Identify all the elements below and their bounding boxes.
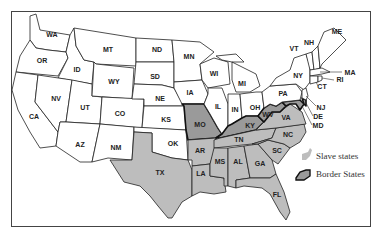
label-OK: OK bbox=[168, 140, 179, 147]
state-NY bbox=[270, 54, 310, 90]
label-LA: LA bbox=[196, 170, 205, 177]
label-MN: MN bbox=[184, 53, 195, 60]
legend-border-label: Border States bbox=[316, 169, 365, 179]
label-MD: MD bbox=[313, 122, 324, 129]
label-AZ: AZ bbox=[75, 141, 85, 148]
label-NY: NY bbox=[293, 72, 303, 79]
label-TN: TN bbox=[234, 136, 243, 143]
label-TX: TX bbox=[156, 169, 165, 176]
state-NJ bbox=[302, 88, 308, 100]
label-AL: AL bbox=[233, 158, 243, 165]
label-SC: SC bbox=[272, 147, 282, 154]
label-CA: CA bbox=[29, 113, 39, 120]
label-KS: KS bbox=[161, 116, 171, 123]
leader-RI bbox=[322, 78, 334, 80]
leader-DE bbox=[306, 103, 313, 116]
label-ID: ID bbox=[74, 66, 81, 73]
leader-NJ bbox=[306, 96, 316, 106]
label-NH: NH bbox=[304, 39, 314, 46]
label-IN: IN bbox=[232, 106, 239, 113]
label-VT: VT bbox=[290, 45, 300, 52]
label-KY: KY bbox=[245, 122, 255, 129]
label-NM: NM bbox=[111, 144, 122, 151]
label-SD: SD bbox=[150, 73, 160, 80]
state-FL bbox=[236, 174, 290, 220]
us-map: WA OR CA ID NV UT AZ MT WY CO NM ND SD N… bbox=[0, 0, 381, 237]
label-IA: IA bbox=[187, 89, 194, 96]
label-CO: CO bbox=[115, 110, 126, 117]
label-DE: DE bbox=[313, 113, 323, 120]
label-NC: NC bbox=[283, 131, 293, 138]
label-UT: UT bbox=[80, 104, 90, 111]
label-ME: ME bbox=[332, 28, 343, 35]
legend-slave-swatch-icon bbox=[302, 148, 312, 160]
label-WA: WA bbox=[46, 31, 57, 38]
label-GA: GA bbox=[255, 160, 266, 167]
label-MA: MA bbox=[345, 69, 356, 76]
legend-slave-label: Slave states bbox=[316, 151, 359, 161]
label-NE: NE bbox=[155, 95, 165, 102]
label-MS: MS bbox=[215, 158, 226, 165]
legend-border-swatch-icon bbox=[296, 170, 310, 180]
label-NV: NV bbox=[51, 95, 61, 102]
label-RI: RI bbox=[337, 76, 344, 83]
label-IL: IL bbox=[215, 103, 222, 110]
label-NJ: NJ bbox=[317, 104, 326, 111]
label-CT: CT bbox=[317, 83, 327, 90]
label-PA: PA bbox=[278, 90, 287, 97]
label-OR: OR bbox=[37, 57, 48, 64]
label-VA: VA bbox=[281, 114, 290, 121]
label-MO: MO bbox=[194, 121, 206, 128]
label-WY: WY bbox=[108, 78, 120, 85]
label-WV: WV bbox=[262, 111, 274, 118]
label-MT: MT bbox=[103, 46, 114, 53]
label-FL: FL bbox=[273, 191, 282, 198]
label-OH: OH bbox=[250, 104, 261, 111]
label-AR: AR bbox=[195, 147, 205, 154]
label-ND: ND bbox=[152, 46, 162, 53]
label-MI: MI bbox=[238, 80, 246, 87]
label-WI: WI bbox=[210, 70, 219, 77]
state-RI bbox=[318, 76, 322, 82]
